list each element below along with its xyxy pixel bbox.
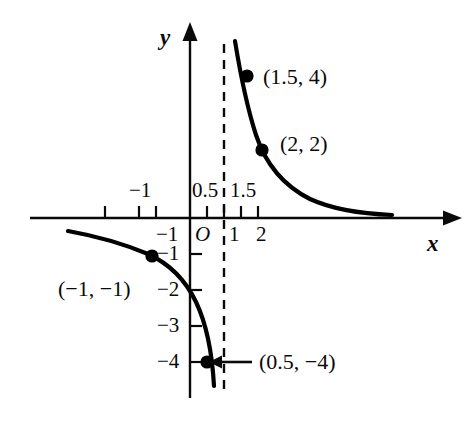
- x-tick-label-2: 2: [256, 224, 267, 245]
- x-tick-label-1: 1: [229, 224, 240, 245]
- x-axis: [30, 211, 462, 226]
- point-label-1-5-4: (1.5, 4): [263, 66, 327, 88]
- y-tick-label-neg4: −4: [157, 351, 179, 372]
- x-tick-label-0point5: 0.5: [192, 180, 218, 201]
- data-point-1-5-4: [240, 69, 253, 82]
- y-tick-label-neg3: −3: [157, 315, 179, 336]
- point-label-0-5-neg4: (0.5, −4): [259, 351, 336, 373]
- coordinate-plane: [0, 0, 472, 432]
- x-tick-label-1point5: 1.5: [230, 180, 256, 201]
- y-tick-label-neg2: −2: [157, 279, 179, 300]
- x-tick-label-neg1-above: −1: [129, 180, 151, 201]
- data-point-2-2: [255, 143, 268, 156]
- y-axis-label: y: [160, 26, 170, 49]
- y-tick-label-neg1: −1: [157, 243, 179, 264]
- point-label-neg1-neg1: (−1, −1): [58, 278, 130, 300]
- y-axis: [183, 22, 198, 398]
- graph-figure: y x −1 0.5 1.5 −1 O 1 2 −1 −2 −3 −4 (1.5…: [0, 0, 472, 432]
- x-axis-ticks: [105, 206, 258, 218]
- origin-label: O: [195, 224, 210, 245]
- point-label-2-2: (2, 2): [280, 133, 328, 155]
- annotation-arrow-0-5-neg4: [209, 356, 252, 369]
- x-axis-label: x: [427, 232, 439, 255]
